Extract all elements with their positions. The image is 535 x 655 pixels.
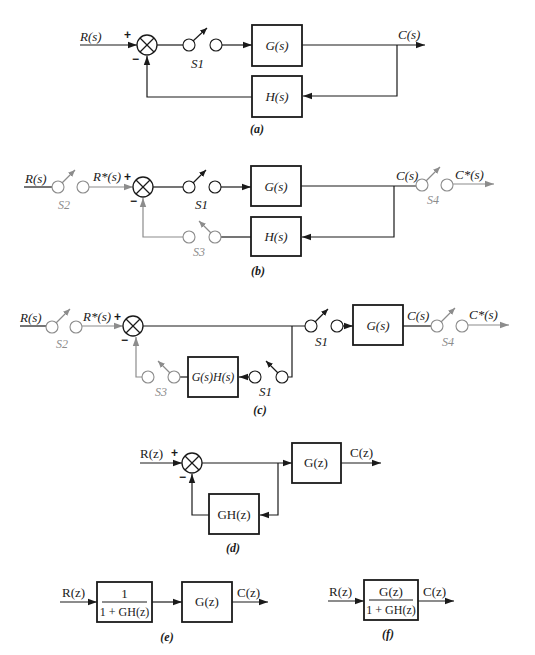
- switch-s4: [416, 167, 453, 191]
- switch-s2: [46, 309, 82, 333]
- switch-s3-label: S3: [155, 385, 167, 399]
- forward-block-label: G(z): [304, 455, 328, 470]
- switch-s2: [52, 170, 89, 193]
- switch-s1-feedback: [249, 361, 288, 383]
- input-label: R(z): [140, 446, 163, 461]
- feedback-block-label: GH(z): [217, 507, 250, 522]
- diagram-d: R(z) + − G(z) C(z) GH(z) (d): [140, 443, 381, 555]
- caption-e: (e): [160, 630, 173, 644]
- switch-s1-forward: [305, 309, 343, 332]
- forward-block-label: G(s): [264, 179, 287, 194]
- feedback-path: [302, 186, 394, 237]
- sampled-input-label: R*(s): [82, 309, 111, 324]
- switch-s2-label: S2: [58, 198, 70, 212]
- switch-s4: [431, 308, 468, 332]
- switch-s2-label: S2: [56, 337, 68, 351]
- minus-sign: −: [132, 52, 139, 66]
- output-label: C(z): [350, 445, 373, 460]
- caption-d: (d): [226, 541, 240, 555]
- switch-s1: [183, 28, 222, 51]
- block1-numerator: 1: [121, 586, 128, 601]
- block-diagram-figure: R(s) + − S1 G(s) C(s) H(s) (a) R(s): [0, 0, 535, 655]
- switch-s3: [142, 361, 180, 383]
- output-label: C(s): [407, 308, 429, 323]
- input-label: R(s): [24, 171, 47, 186]
- input-label: R(z): [329, 584, 352, 599]
- plus-sign: +: [124, 28, 131, 42]
- plus-sign: +: [114, 310, 121, 324]
- feedback-block-label: H(s): [264, 89, 288, 104]
- switch-s4-label: S4: [442, 335, 454, 349]
- sampled-feedback-path: [136, 337, 142, 377]
- sampled-output-label: C*(s): [469, 307, 498, 322]
- switch-s1-label: S1: [191, 56, 204, 71]
- switch-s1-label: S1: [195, 197, 208, 212]
- summing-junction: [137, 35, 157, 55]
- minus-sign: −: [130, 194, 137, 208]
- switch-s1-forward-label: S1: [315, 334, 328, 349]
- forward-block-label: G(s): [265, 38, 288, 53]
- plus-sign: +: [124, 170, 131, 184]
- diagram-b: R(s) S2 R*(s) + − S1 G(s) C(s): [24, 166, 494, 278]
- feedback-return-path: [192, 474, 209, 515]
- sampled-output-label: C*(s): [455, 167, 484, 182]
- output-label: C(z): [423, 584, 446, 599]
- diagram-c: R(s) S2 R*(s) + − S1 G(s) C(s): [19, 305, 509, 417]
- switch-s1: [183, 170, 221, 193]
- output-label: C(s): [398, 27, 420, 42]
- diagram-f: R(z) G(z) 1 + GH(z) C(z) (f): [328, 580, 454, 641]
- input-label: R(s): [79, 29, 102, 44]
- feedback-block-label: H(s): [263, 229, 287, 244]
- caption-f: (f): [382, 627, 394, 641]
- minus-sign: −: [121, 333, 128, 347]
- caption-a: (a): [250, 122, 264, 136]
- plus-sign: +: [171, 446, 178, 460]
- switch-s3-label: S3: [193, 245, 205, 259]
- block-numerator: G(z): [379, 584, 403, 599]
- output-label: C(z): [237, 585, 260, 600]
- diagram-a: R(s) + − S1 G(s) C(s) H(s) (a): [79, 25, 425, 136]
- caption-b: (b): [251, 264, 265, 278]
- input-label: R(z): [62, 585, 85, 600]
- feedback-block-label: G(s)H(s): [192, 370, 235, 384]
- diagram-e: R(z) 1 1 + GH(z) G(z) C(z) (e): [60, 582, 268, 644]
- block1-denominator: 1 + GH(z): [100, 605, 149, 619]
- caption-c: (c): [253, 403, 266, 417]
- feedback-path: [303, 45, 397, 96]
- switch-s3: [183, 221, 221, 243]
- feedback-path: [260, 463, 278, 515]
- feedback-branch: [288, 326, 292, 377]
- block-denominator: 1 + GH(z): [366, 603, 415, 617]
- sampled-feedback-path: [143, 198, 183, 237]
- minus-sign: −: [179, 470, 186, 484]
- sampled-input-label: R*(s): [92, 169, 121, 184]
- switch-s4-label: S4: [427, 193, 439, 207]
- switch-s1-feedback-label: S1: [259, 384, 272, 399]
- block2-label: G(z): [195, 594, 219, 609]
- input-label: R(s): [19, 310, 42, 325]
- forward-block-label: G(s): [366, 318, 389, 333]
- output-label: C(s): [396, 168, 418, 183]
